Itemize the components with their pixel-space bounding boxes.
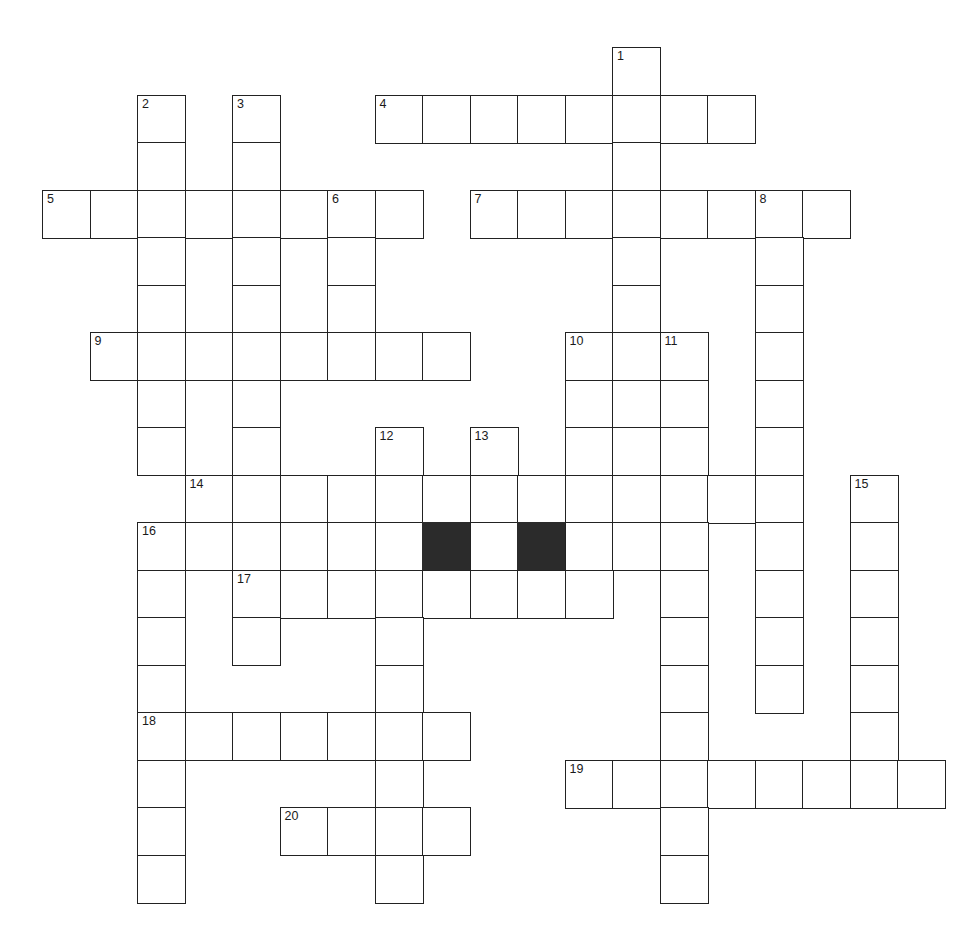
crossword-cell[interactable] bbox=[517, 95, 566, 144]
crossword-cell[interactable] bbox=[375, 522, 424, 571]
crossword-cell[interactable] bbox=[232, 380, 281, 429]
crossword-cell[interactable] bbox=[660, 570, 709, 619]
crossword-cell[interactable] bbox=[422, 807, 471, 856]
crossword-cell[interactable] bbox=[280, 475, 329, 524]
crossword-cell[interactable] bbox=[660, 665, 709, 714]
crossword-cell[interactable] bbox=[375, 570, 424, 619]
crossword-cell[interactable] bbox=[137, 237, 186, 286]
crossword-cell[interactable] bbox=[232, 522, 281, 571]
crossword-cell[interactable] bbox=[707, 95, 756, 144]
crossword-cell[interactable] bbox=[850, 712, 899, 761]
crossword-cell[interactable] bbox=[612, 142, 661, 191]
crossword-cell[interactable] bbox=[375, 855, 424, 904]
crossword-cell[interactable] bbox=[612, 190, 661, 239]
crossword-cell-start-4[interactable]: 4 bbox=[375, 95, 424, 144]
crossword-cell[interactable] bbox=[612, 380, 661, 429]
crossword-cell-start-14[interactable]: 14 bbox=[185, 475, 234, 524]
crossword-cell-start-18[interactable]: 18 bbox=[137, 712, 186, 761]
crossword-cell[interactable] bbox=[232, 427, 281, 476]
crossword-cell-start-3[interactable]: 3 bbox=[232, 95, 281, 144]
crossword-cell[interactable] bbox=[375, 760, 424, 809]
crossword-cell[interactable] bbox=[565, 427, 614, 476]
crossword-cell[interactable] bbox=[90, 190, 139, 239]
crossword-cell[interactable] bbox=[137, 380, 186, 429]
crossword-cell[interactable] bbox=[707, 475, 756, 524]
crossword-cell[interactable] bbox=[327, 332, 376, 381]
crossword-cell[interactable] bbox=[897, 760, 946, 809]
crossword-cell[interactable] bbox=[565, 475, 614, 524]
crossword-cell[interactable] bbox=[660, 712, 709, 761]
crossword-cell[interactable] bbox=[517, 190, 566, 239]
crossword-cell[interactable] bbox=[755, 617, 804, 666]
crossword-cell[interactable] bbox=[755, 665, 804, 714]
crossword-cell-start-13[interactable]: 13 bbox=[470, 427, 519, 476]
crossword-cell[interactable] bbox=[755, 570, 804, 619]
crossword-cell[interactable] bbox=[802, 760, 851, 809]
crossword-cell[interactable] bbox=[137, 807, 186, 856]
crossword-cell[interactable] bbox=[660, 807, 709, 856]
crossword-cell[interactable] bbox=[612, 522, 661, 571]
crossword-cell[interactable] bbox=[422, 475, 471, 524]
crossword-cell[interactable] bbox=[232, 190, 281, 239]
crossword-cell[interactable] bbox=[755, 760, 804, 809]
crossword-cell[interactable] bbox=[850, 570, 899, 619]
crossword-cell[interactable] bbox=[137, 190, 186, 239]
crossword-cell[interactable] bbox=[280, 190, 329, 239]
crossword-cell[interactable] bbox=[755, 427, 804, 476]
crossword-cell[interactable] bbox=[470, 522, 519, 571]
crossword-cell[interactable] bbox=[327, 570, 376, 619]
crossword-cell[interactable] bbox=[660, 380, 709, 429]
crossword-cell[interactable] bbox=[137, 142, 186, 191]
crossword-cell[interactable] bbox=[850, 665, 899, 714]
crossword-cell[interactable] bbox=[422, 570, 471, 619]
crossword-cell[interactable] bbox=[137, 427, 186, 476]
crossword-cell-start-19[interactable]: 19 bbox=[565, 760, 614, 809]
crossword-cell-start-9[interactable]: 9 bbox=[90, 332, 139, 381]
crossword-cell[interactable] bbox=[660, 522, 709, 571]
crossword-cell[interactable] bbox=[612, 237, 661, 286]
crossword-cell[interactable] bbox=[232, 617, 281, 666]
crossword-cell[interactable] bbox=[850, 522, 899, 571]
crossword-cell[interactable] bbox=[660, 855, 709, 904]
crossword-cell[interactable] bbox=[137, 285, 186, 334]
crossword-cell[interactable] bbox=[137, 760, 186, 809]
crossword-cell[interactable] bbox=[185, 190, 234, 239]
crossword-cell[interactable] bbox=[755, 285, 804, 334]
crossword-cell[interactable] bbox=[137, 570, 186, 619]
crossword-cell[interactable] bbox=[660, 760, 709, 809]
crossword-cell[interactable] bbox=[375, 190, 424, 239]
crossword-cell[interactable] bbox=[755, 332, 804, 381]
crossword-cell[interactable] bbox=[422, 95, 471, 144]
crossword-cell-start-8[interactable]: 8 bbox=[755, 190, 804, 239]
crossword-cell[interactable] bbox=[850, 760, 899, 809]
crossword-cell[interactable] bbox=[612, 475, 661, 524]
crossword-cell[interactable] bbox=[565, 190, 614, 239]
crossword-cell[interactable] bbox=[280, 570, 329, 619]
crossword-cell[interactable] bbox=[755, 380, 804, 429]
crossword-cell[interactable] bbox=[375, 475, 424, 524]
crossword-cell[interactable] bbox=[327, 522, 376, 571]
crossword-cell[interactable] bbox=[755, 475, 804, 524]
crossword-cell[interactable] bbox=[375, 665, 424, 714]
crossword-cell[interactable] bbox=[232, 237, 281, 286]
crossword-cell-start-2[interactable]: 2 bbox=[137, 95, 186, 144]
crossword-cell[interactable] bbox=[470, 570, 519, 619]
crossword-cell[interactable] bbox=[850, 617, 899, 666]
crossword-cell[interactable] bbox=[660, 95, 709, 144]
crossword-cell[interactable] bbox=[232, 712, 281, 761]
crossword-cell-start-16[interactable]: 16 bbox=[137, 522, 186, 571]
crossword-cell[interactable] bbox=[612, 285, 661, 334]
crossword-cell[interactable] bbox=[185, 332, 234, 381]
crossword-cell[interactable] bbox=[755, 237, 804, 286]
crossword-cell[interactable] bbox=[517, 475, 566, 524]
crossword-cell[interactable] bbox=[232, 142, 281, 191]
crossword-cell[interactable] bbox=[375, 617, 424, 666]
crossword-cell[interactable] bbox=[660, 190, 709, 239]
crossword-cell[interactable] bbox=[137, 617, 186, 666]
crossword-cell[interactable] bbox=[612, 95, 661, 144]
crossword-cell[interactable] bbox=[422, 332, 471, 381]
crossword-cell[interactable] bbox=[707, 760, 756, 809]
crossword-cell-start-11[interactable]: 11 bbox=[660, 332, 709, 381]
crossword-cell[interactable] bbox=[327, 712, 376, 761]
crossword-cell[interactable] bbox=[755, 522, 804, 571]
